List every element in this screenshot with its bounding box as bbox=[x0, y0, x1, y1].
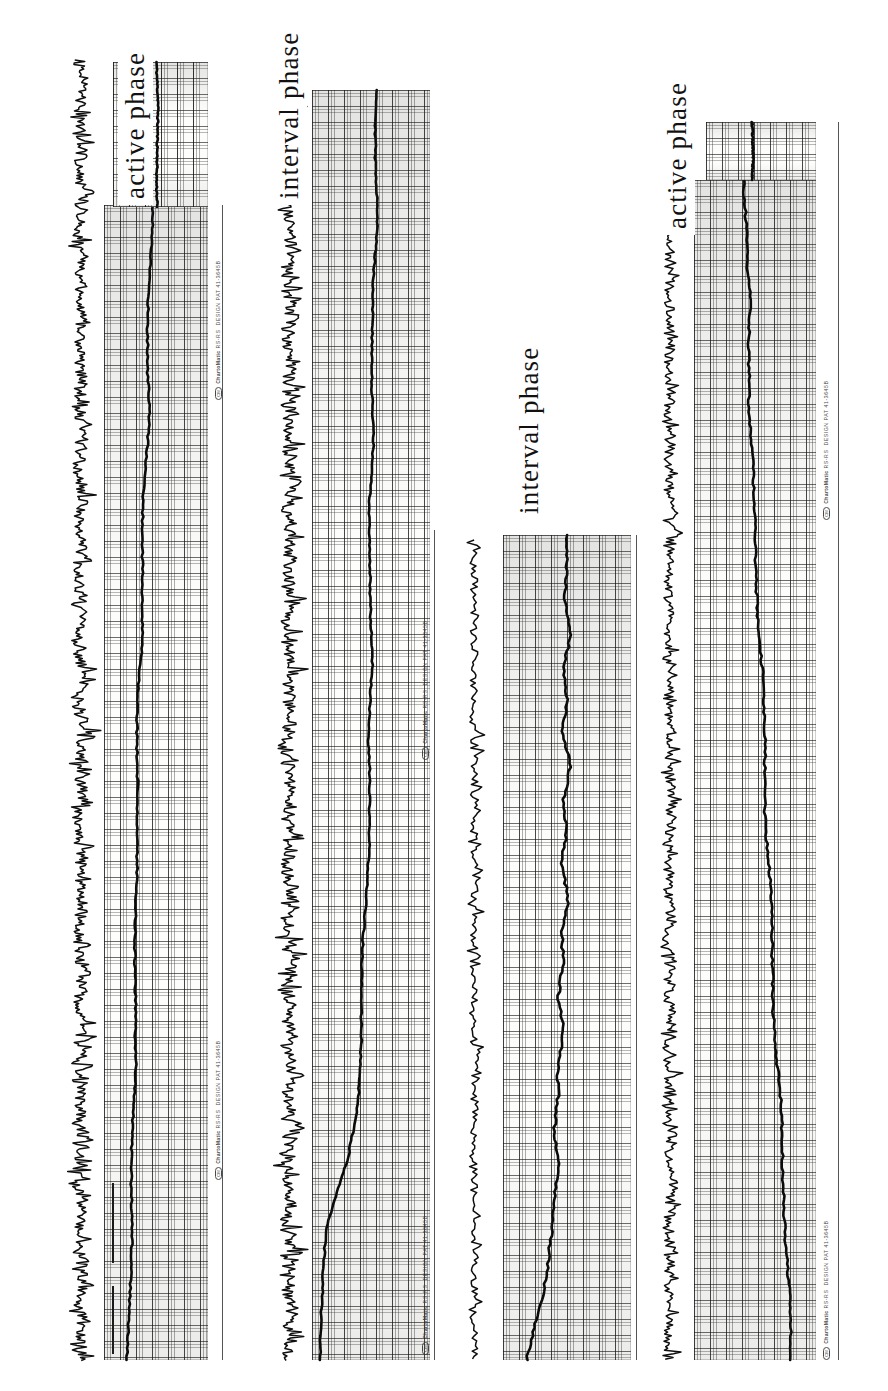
strip-edge-rule-4 bbox=[838, 122, 839, 1360]
trend-trace-2 bbox=[312, 90, 430, 1360]
chartomatic-logo-icon-4b: CM bbox=[823, 1347, 830, 1360]
chartomatic-logo-icon-1b: CM bbox=[215, 1167, 222, 1180]
chartomatic-logo-icon-2a: CM bbox=[422, 747, 429, 760]
brand-patent-2a: 41-3645B bbox=[422, 621, 428, 648]
brand-model-4a: RS-RS bbox=[823, 450, 829, 469]
paper-shading-1 bbox=[104, 205, 208, 1360]
brand-patent-1b: 41-3645B bbox=[215, 1041, 221, 1068]
chart-paper-2 bbox=[312, 90, 430, 1360]
chartomatic-logo-icon-2b: CM bbox=[422, 1342, 429, 1355]
trend-trace-1 bbox=[104, 205, 208, 1360]
brand-design-1b: DESIGN PAT bbox=[215, 1069, 221, 1105]
raw-signal-lane-1 bbox=[58, 60, 104, 1360]
brand-model-2b: RS-RS bbox=[422, 1285, 428, 1304]
raw-signal-lane-3 bbox=[455, 540, 495, 1360]
brand-model-2a: RS-RS bbox=[422, 690, 428, 709]
raw-signal-trace-4 bbox=[648, 110, 692, 1360]
raw-signal-trace-2 bbox=[268, 60, 312, 1360]
brand-model-4b: RS-RS bbox=[823, 1290, 829, 1309]
brand-design-2b: DESIGN PAT bbox=[422, 1244, 428, 1280]
phase-label-2: interval phase bbox=[272, 26, 307, 206]
trend-trace-4 bbox=[694, 180, 816, 1360]
brand-patent-4a: 41-3645B bbox=[823, 381, 829, 408]
paper-shading-4-top bbox=[706, 122, 816, 180]
paper-shading-2 bbox=[312, 90, 430, 1360]
chart-paper-4-top bbox=[706, 122, 816, 180]
phase-label-4: active phase bbox=[660, 76, 695, 235]
chart-paper-4 bbox=[694, 180, 816, 1360]
brand-maker-1b: ChartoMatic bbox=[215, 1130, 221, 1163]
paper-brand-2a: CMChartoMatic RS-RS DESIGN PAT 41-3645B bbox=[422, 621, 429, 760]
paper-shading-4 bbox=[694, 180, 816, 1360]
phase-label-1: active phase bbox=[118, 46, 153, 205]
brand-design-2a: DESIGN PAT bbox=[422, 649, 428, 685]
brand-maker-4b: ChartoMatic bbox=[823, 1310, 829, 1343]
raw-signal-lane-2 bbox=[268, 60, 312, 1360]
brand-maker-4a: ChartoMatic bbox=[823, 470, 829, 503]
paper-brand-1b: CMChartoMatic RS-RS DESIGN PAT 41-3645B bbox=[215, 1041, 222, 1180]
trend-trace-3 bbox=[503, 535, 631, 1360]
chartomatic-logo-icon-1a: CM bbox=[215, 387, 222, 400]
raw-signal-trace-3 bbox=[455, 540, 495, 1360]
chart-paper-3 bbox=[503, 535, 631, 1360]
brand-patent-2b: 41-3645B bbox=[422, 1216, 428, 1243]
brand-model-1a: RS-RS bbox=[215, 330, 221, 349]
paper-brand-1a: CMChartoMatic RS-RS DESIGN PAT 41-3645B bbox=[215, 261, 222, 400]
calibration-tick-1a bbox=[112, 1183, 114, 1263]
brand-maker-2a: ChartoMatic bbox=[422, 710, 428, 743]
brand-design-4b: DESIGN PAT bbox=[823, 1249, 829, 1285]
phase-label-3: interval phase bbox=[512, 341, 547, 521]
brand-maker-1a: ChartoMatic bbox=[215, 350, 221, 383]
strip-edge-rule-2 bbox=[434, 530, 435, 1360]
trend-trace-4-top bbox=[706, 122, 816, 180]
paper-brand-2b: CMChartoMatic RS-RS DESIGN PAT 41-3645B bbox=[422, 1216, 429, 1355]
paper-brand-4a: CMChartoMatic RS-RS DESIGN PAT 41-3645B bbox=[823, 381, 830, 520]
brand-design-4a: DESIGN PAT bbox=[823, 409, 829, 445]
chart-paper-1 bbox=[104, 205, 208, 1360]
calibration-tick-1b bbox=[112, 1286, 114, 1354]
raw-signal-lane-4 bbox=[648, 110, 692, 1360]
brand-model-1b: RS-RS bbox=[215, 1110, 221, 1129]
brand-design-1a: DESIGN PAT bbox=[215, 289, 221, 325]
chartomatic-logo-icon-4a: CM bbox=[823, 507, 830, 520]
brand-maker-2b: ChartoMatic bbox=[422, 1305, 428, 1338]
brand-patent-4b: 41-3645B bbox=[823, 1221, 829, 1248]
strip-edge-rule-1 bbox=[222, 205, 223, 1360]
paper-brand-4b: CMChartoMatic RS-RS DESIGN PAT 41-3645B bbox=[823, 1221, 830, 1360]
brand-patent-1a: 41-3645B bbox=[215, 261, 221, 288]
raw-signal-trace-1 bbox=[58, 60, 104, 1360]
strip-edge-rule-3 bbox=[636, 535, 637, 1360]
scanned-chart-document: active phase CMChartoMatic RS-RS DESIGN … bbox=[0, 0, 888, 1391]
paper-shading-3 bbox=[503, 535, 631, 1360]
